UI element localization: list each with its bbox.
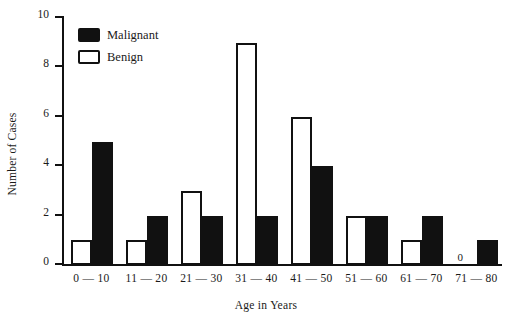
bar-malignant	[92, 142, 113, 266]
bar-benign	[126, 240, 147, 265]
bar-malignant	[202, 216, 223, 265]
bar-group: 0	[456, 18, 498, 265]
bar-benign	[346, 216, 367, 265]
bar-malignant	[147, 216, 168, 265]
zero-value-label: 0	[458, 251, 464, 263]
bar-benign	[401, 240, 422, 265]
x-axis-title: Age in Years	[0, 299, 532, 311]
y-axis-tick: 4	[55, 164, 64, 166]
bar-benign	[181, 191, 202, 265]
y-axis-tick-label: 10	[38, 8, 50, 20]
legend-label: Benign	[107, 50, 143, 65]
bar-malignant	[312, 166, 333, 265]
bar-benign	[236, 43, 257, 265]
y-axis-tick-label: 6	[43, 107, 49, 119]
y-axis-tick-label: 4	[43, 156, 49, 168]
bar-group	[181, 18, 223, 265]
y-axis-tick-label: 0	[43, 255, 49, 267]
bar-benign	[71, 240, 92, 265]
x-axis-tick-label: 71 — 80	[442, 272, 512, 284]
bar-group	[236, 18, 278, 265]
y-axis-tick: 6	[55, 115, 64, 117]
legend-label: Malignant	[107, 28, 158, 43]
y-axis-tick: 8	[55, 65, 64, 67]
legend-item: Malignant	[78, 24, 158, 46]
y-axis-tick: 2	[55, 214, 64, 216]
y-axis-tick-label: 2	[43, 206, 49, 218]
legend-swatch-benign	[78, 50, 100, 64]
y-axis-tick: 0	[55, 263, 64, 265]
bar-malignant	[367, 216, 388, 265]
bar-malignant	[257, 216, 278, 265]
chart-legend: MalignantBenign	[78, 24, 158, 68]
bar-group	[291, 18, 333, 265]
bar-malignant	[477, 240, 498, 265]
y-axis-title: Number of Cases	[6, 0, 18, 84]
y-axis-tick: 10	[55, 16, 64, 18]
bar-group	[346, 18, 388, 265]
legend-item: Benign	[78, 46, 158, 68]
y-axis-title-text: Number of Cases	[6, 84, 18, 224]
legend-swatch-malignant	[78, 28, 100, 42]
bar-malignant	[422, 216, 443, 265]
bar-group	[401, 18, 443, 265]
y-axis-tick-label: 8	[43, 57, 49, 69]
bar-chart-figure: Number of Cases 0246810 0 0 — 1011 — 202…	[0, 0, 532, 329]
bar-benign	[291, 117, 312, 265]
